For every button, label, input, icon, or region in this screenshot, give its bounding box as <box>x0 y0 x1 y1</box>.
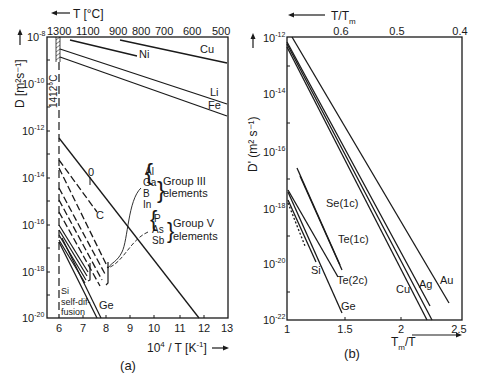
svg-text:10-20: 10-20 <box>263 257 285 270</box>
y-tick-a-3: 10-14 <box>22 171 44 184</box>
svg-text:D' (m² s⁻¹): D' (m² s⁻¹) <box>246 116 260 172</box>
panel-label-b: (b) <box>344 346 360 361</box>
svg-text:10-16: 10-16 <box>22 218 44 231</box>
series-labels-b: Se(1c) Te(1c) Si Te(2c) Ge Cu Ag Au <box>311 197 453 312</box>
svg-text:2: 2 <box>398 323 404 335</box>
melt-hatch <box>56 37 60 62</box>
line-ga <box>59 188 105 274</box>
group-v-legend: { P As Sb } Group V elements <box>108 206 218 268</box>
arrow-up-icon <box>18 29 23 35</box>
top-ticks-b: 0.6 0.5 0.4 <box>333 25 467 37</box>
svg-text:P: P <box>154 213 161 224</box>
svg-text:8: 8 <box>103 322 109 334</box>
figure: T [°C] 1300 1100 900 800 700 600 500 D [… <box>0 0 477 374</box>
svg-text:fusion: fusion <box>61 307 85 317</box>
svg-text:Group V: Group V <box>173 217 215 229</box>
svg-text:11: 11 <box>174 322 185 334</box>
x-axis-title-a: 104 / T [K-1] <box>147 340 229 355</box>
label-si-b: Si <box>311 264 321 276</box>
svg-text:2.5: 2.5 <box>451 323 466 335</box>
label-ag: Ag <box>419 278 432 290</box>
label-au: Au <box>440 274 453 286</box>
arrow-right-icon <box>223 346 229 351</box>
svg-text:1.5: 1.5 <box>337 323 352 335</box>
svg-text:800: 800 <box>132 25 150 37</box>
svg-text:T [°C]: T [°C] <box>73 7 104 21</box>
label-ge-b: Ge <box>341 300 356 312</box>
arrow-left-icon <box>51 11 57 16</box>
svg-text:10-14: 10-14 <box>263 87 285 100</box>
svg-text:Group III: Group III <box>163 175 206 187</box>
top-axis-title-b: T/Tm <box>288 9 356 26</box>
svg-text:1300: 1300 <box>47 25 71 37</box>
si-self-diffusion-label: Si self-dif- fusion <box>61 286 91 317</box>
y-tick-a-1: 10-10 <box>22 77 44 90</box>
y-tick-a-4: 10-16 <box>22 218 44 231</box>
y-tick-a-6: 10-20 <box>22 311 44 324</box>
svg-text:elements: elements <box>163 187 208 199</box>
label-cu-b: Cu <box>396 283 410 295</box>
svg-text:1: 1 <box>284 323 290 335</box>
label-ni: Ni <box>139 48 149 60</box>
y-tick-b-2: 10-16 <box>263 145 285 158</box>
svg-text:10-20: 10-20 <box>22 311 44 324</box>
line-sb <box>59 235 86 280</box>
svg-text:7: 7 <box>80 322 86 334</box>
svg-text:elements: elements <box>173 230 218 242</box>
label-c: C <box>96 209 104 221</box>
panel-a: T [°C] 1300 1100 900 800 700 600 500 D [… <box>13 7 233 373</box>
svg-text:10-18: 10-18 <box>22 265 44 278</box>
svg-text:Tm/T: Tm/T <box>391 335 416 352</box>
svg-text:900: 900 <box>109 25 127 37</box>
svg-text:10-12: 10-12 <box>263 31 285 44</box>
y-tick-b-3: 10-18 <box>263 202 285 215</box>
y-tick-b-5: 10-22 <box>263 313 285 326</box>
svg-text:6: 6 <box>56 322 62 334</box>
y-tick-a-2: 10-12 <box>22 124 44 137</box>
panel-label-a: (a) <box>120 358 136 373</box>
svg-text:B: B <box>143 188 150 199</box>
arrow-up-icon <box>251 33 256 39</box>
svg-text:700: 700 <box>155 25 173 37</box>
label-fe: Fe <box>208 99 221 111</box>
y-ticks-b: 10-12 10-14 10-16 10-18 10-20 10-22 <box>263 31 285 326</box>
svg-text:0.6: 0.6 <box>333 25 348 37</box>
svg-text:9: 9 <box>127 322 133 334</box>
x-axis-title-b: Tm/T <box>391 333 462 353</box>
label-se1c: Se(1c) <box>326 197 358 209</box>
svg-text:1100: 1100 <box>76 25 100 37</box>
top-axis-title-a: T [°C] <box>51 7 104 21</box>
svg-text:10-10: 10-10 <box>22 77 44 90</box>
label-te1c: Te(1c) <box>338 233 369 245</box>
svg-text:13: 13 <box>221 322 233 334</box>
melt-label: 1412°C <box>48 75 59 108</box>
label-cu: Cu <box>200 43 214 55</box>
svg-text:self-dif-: self-dif- <box>61 297 91 307</box>
y-tick-a-0: 10-8 <box>27 30 46 43</box>
top-ticks-a: 1300 1100 900 800 700 600 500 <box>47 25 230 37</box>
label-li: Li <box>210 86 219 98</box>
svg-text:Al: Al <box>145 166 154 177</box>
svg-text:As: As <box>152 224 164 235</box>
arrow-left-icon <box>288 13 294 18</box>
y-tick-b-0: 10-12 <box>263 31 285 44</box>
x-ticks-a: 6 7 8 9 10 11 12 13 <box>56 322 233 334</box>
panel-b: T/Tm 0.6 0.5 0.4 D' (m² s⁻¹) 10-12 10-14… <box>246 9 468 361</box>
svg-text:12: 12 <box>198 322 210 334</box>
svg-text:0.5: 0.5 <box>389 25 404 37</box>
svg-text:500: 500 <box>212 25 230 37</box>
svg-text:Si: Si <box>61 286 69 296</box>
label-te2c: Te(2c) <box>337 274 368 286</box>
line-fe <box>60 57 227 116</box>
svg-text:10-12: 10-12 <box>22 124 44 137</box>
y-tick-b-1: 10-14 <box>263 87 285 100</box>
plot-frame-b <box>287 37 462 320</box>
y-tick-b-4: 10-20 <box>263 257 285 270</box>
svg-text:10: 10 <box>148 322 160 334</box>
svg-text:0.4: 0.4 <box>452 25 467 37</box>
line-ni <box>70 40 137 56</box>
svg-text:10-16: 10-16 <box>263 145 285 158</box>
svg-text:10-22: 10-22 <box>263 313 285 326</box>
svg-text:600: 600 <box>183 25 201 37</box>
svg-text:104 / T [K-1]: 104 / T [K-1] <box>147 340 207 355</box>
